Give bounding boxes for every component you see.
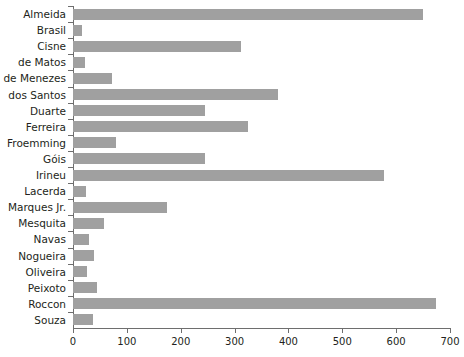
bar-row: [73, 186, 450, 197]
bar-row: [73, 41, 450, 52]
category-label: Marques Jr.: [0, 201, 66, 213]
category-label: Cisne: [0, 40, 66, 52]
bar: [73, 25, 82, 36]
category-label: de Matos: [0, 56, 66, 68]
category-label: Brasil: [0, 24, 66, 36]
bar: [73, 170, 384, 181]
category-label: Peixoto: [0, 282, 66, 294]
bar-row: [73, 202, 450, 213]
bar-row: [73, 298, 450, 309]
x-axis-tick: [450, 329, 451, 333]
bar: [73, 153, 205, 164]
bar-row: [73, 314, 450, 325]
bar-row: [73, 25, 450, 36]
bar: [73, 282, 97, 293]
bar-row: [73, 250, 450, 261]
bar-row: [73, 105, 450, 116]
x-axis-tick-label: 100: [117, 336, 136, 348]
x-axis-tick-label: 400: [279, 336, 298, 348]
category-label: Ferreira: [0, 121, 66, 133]
bar: [73, 234, 89, 245]
bar: [73, 266, 87, 277]
x-axis-tick: [235, 329, 236, 333]
bar: [73, 57, 85, 68]
bar: [73, 137, 116, 148]
x-axis-tick: [73, 329, 74, 333]
bar: [73, 73, 112, 84]
bar: [73, 202, 167, 213]
x-axis-tick-label: 200: [171, 336, 190, 348]
x-axis-tick-label: 600: [387, 336, 406, 348]
bar-row: [73, 218, 450, 229]
x-axis-tick: [342, 329, 343, 333]
bars-layer: [73, 6, 450, 328]
bar-chart: AlmeidaBrasilCisnede Matosde Menezesdos …: [0, 0, 464, 357]
bar-row: [73, 89, 450, 100]
category-label: dos Santos: [0, 89, 66, 101]
x-axis-tick-label: 500: [333, 336, 352, 348]
bar: [73, 89, 278, 100]
x-axis-tick: [127, 329, 128, 333]
bar: [73, 105, 205, 116]
x-axis-tick-label: 300: [225, 336, 244, 348]
x-axis-tick-label: 0: [70, 336, 76, 348]
bar: [73, 186, 86, 197]
bar-row: [73, 137, 450, 148]
bar-row: [73, 234, 450, 245]
category-label: Lacerda: [0, 185, 66, 197]
category-label: Góis: [0, 153, 66, 165]
x-axis-line: [73, 328, 451, 329]
category-label: Roccon: [0, 298, 66, 310]
category-label: Almeida: [0, 8, 66, 20]
bar: [73, 121, 248, 132]
bar: [73, 218, 104, 229]
bar-row: [73, 153, 450, 164]
x-axis-tick: [288, 329, 289, 333]
x-axis-tick: [181, 329, 182, 333]
category-label: Mesquita: [0, 217, 66, 229]
bar-row: [73, 266, 450, 277]
bar: [73, 314, 93, 325]
category-label: Irineu: [0, 169, 66, 181]
bar-row: [73, 121, 450, 132]
category-label: Duarte: [0, 105, 66, 117]
bar: [73, 298, 436, 309]
category-label: Souza: [0, 314, 66, 326]
bar-row: [73, 57, 450, 68]
category-label: Froemming: [0, 137, 66, 149]
x-axis-tick: [396, 329, 397, 333]
bar-row: [73, 9, 450, 20]
bar-row: [73, 73, 450, 84]
category-label: Oliveira: [0, 266, 66, 278]
bar: [73, 41, 241, 52]
bar: [73, 9, 423, 20]
x-axis-tick-label: 700: [440, 336, 459, 348]
category-label: Navas: [0, 233, 66, 245]
bar-row: [73, 282, 450, 293]
bar-row: [73, 170, 450, 181]
category-label: Nogueira: [0, 250, 66, 262]
bar: [73, 250, 94, 261]
category-label: de Menezes: [0, 72, 66, 84]
